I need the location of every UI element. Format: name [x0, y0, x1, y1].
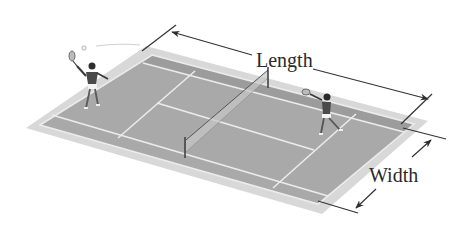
width-label: Width: [369, 165, 418, 185]
length-arrow-left: [172, 32, 252, 55]
width-arrow-bottom: [356, 189, 376, 208]
length-label: Length: [256, 50, 313, 70]
tennis-court-diagram: Length Width: [0, 0, 470, 237]
width-arrow-top: [412, 140, 431, 157]
racket: [69, 51, 75, 61]
length-extension-left: [142, 25, 176, 51]
racket: [302, 89, 310, 95]
length-arrow-right: [313, 69, 428, 99]
court-illustration: [0, 0, 470, 237]
tennis-ball: [82, 46, 86, 50]
